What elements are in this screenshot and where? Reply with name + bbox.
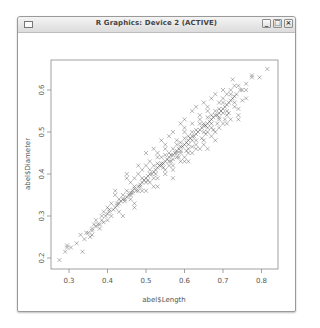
x-marker — [240, 88, 244, 92]
x-marker — [159, 138, 163, 142]
x-marker — [183, 155, 187, 159]
x-marker — [132, 206, 136, 210]
x-marker — [171, 176, 175, 180]
x-marker — [117, 197, 121, 201]
x-marker — [148, 168, 152, 172]
x-marker — [184, 149, 188, 153]
x-marker — [177, 155, 181, 159]
x-marker — [238, 88, 242, 92]
x-marker — [183, 130, 187, 134]
x-marker — [156, 176, 160, 180]
x-marker — [223, 117, 227, 121]
x-marker — [154, 172, 158, 176]
x-tick-label: 0.3 — [63, 277, 74, 285]
x-marker — [107, 208, 111, 212]
x-marker — [132, 185, 136, 189]
x-marker — [169, 159, 173, 163]
x-marker — [198, 122, 202, 126]
x-marker — [194, 147, 198, 151]
x-marker — [175, 151, 179, 155]
x-marker — [163, 147, 167, 151]
x-marker — [65, 246, 69, 250]
x-marker — [167, 159, 171, 163]
x-marker — [194, 105, 198, 109]
x-marker — [202, 124, 206, 128]
x-marker — [217, 107, 221, 111]
x-marker — [186, 134, 190, 138]
x-marker — [100, 214, 104, 218]
x-marker — [113, 193, 117, 197]
x-marker — [198, 117, 202, 121]
x-marker — [209, 96, 213, 100]
x-marker — [109, 201, 113, 205]
x-marker — [233, 101, 237, 105]
x-marker — [90, 227, 94, 231]
x-tick-label: 0.7 — [217, 277, 228, 285]
y-tick-label: 0.6 — [38, 84, 46, 96]
x-marker — [102, 210, 106, 214]
x-marker — [179, 145, 183, 149]
x-marker — [236, 107, 240, 111]
x-marker — [171, 130, 175, 134]
x-marker — [63, 250, 67, 254]
x-marker — [132, 176, 136, 180]
x-marker — [190, 134, 194, 138]
x-marker — [221, 101, 225, 105]
x-marker — [123, 199, 127, 203]
x-marker — [121, 214, 125, 218]
x-marker — [190, 151, 194, 155]
x-marker — [152, 147, 156, 151]
x-marker — [229, 88, 233, 92]
x-marker — [250, 73, 254, 77]
x-marker — [80, 250, 84, 254]
x-marker — [206, 115, 210, 119]
x-marker — [206, 109, 210, 113]
y-tick-label: 0.5 — [38, 126, 46, 137]
x-marker — [209, 134, 213, 138]
x-marker — [82, 237, 86, 241]
x-marker — [183, 117, 187, 121]
x-marker — [209, 113, 213, 117]
x-marker — [202, 101, 206, 105]
x-marker — [209, 122, 213, 126]
x-marker — [244, 82, 248, 86]
x-marker — [217, 126, 221, 130]
x-marker — [79, 233, 83, 237]
x-marker — [179, 159, 183, 163]
x-marker — [152, 164, 156, 168]
x-marker — [175, 138, 179, 142]
x-marker — [213, 109, 217, 113]
x-marker — [136, 172, 140, 176]
x-marker — [156, 162, 160, 166]
x-marker — [265, 67, 269, 71]
x-marker — [213, 113, 217, 117]
y-tick-label: 0.3 — [38, 210, 46, 221]
x-marker — [213, 138, 217, 142]
x-marker — [117, 210, 121, 214]
x-marker — [234, 92, 238, 96]
x-marker — [258, 75, 262, 79]
x-marker — [190, 145, 194, 149]
x-marker — [225, 92, 229, 96]
x-marker — [244, 88, 248, 92]
x-marker — [144, 151, 148, 155]
x-marker — [148, 172, 152, 176]
x-marker — [138, 185, 142, 189]
x-marker — [125, 189, 129, 193]
x-marker — [190, 122, 194, 126]
x-marker — [225, 122, 229, 126]
x-marker — [217, 117, 221, 121]
x-marker — [175, 155, 179, 159]
x-marker — [221, 122, 225, 126]
x-marker — [163, 153, 167, 157]
x-marker — [69, 246, 73, 250]
x-marker — [206, 147, 210, 151]
x-marker — [250, 75, 254, 79]
x-marker — [171, 164, 175, 168]
x-marker — [75, 241, 79, 245]
x-marker — [148, 159, 152, 163]
x-marker — [136, 189, 140, 193]
x-marker — [194, 138, 198, 142]
x-marker — [183, 136, 187, 140]
x-marker — [198, 147, 202, 151]
